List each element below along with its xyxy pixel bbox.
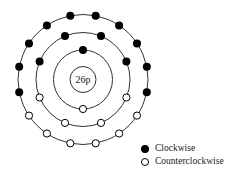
electron-clockwise [122, 58, 130, 66]
legend-item-clockwise: Clockwise [141, 142, 224, 155]
electron-clockwise [15, 63, 23, 71]
legend: Clockwise Counterclockwise [141, 142, 224, 168]
electron-counterclockwise [61, 119, 68, 126]
nucleus: 26p [70, 67, 96, 93]
electron-counterclockwise [25, 112, 32, 119]
electron-counterclockwise [92, 140, 99, 147]
nucleus-label: 26p [76, 74, 91, 85]
electron-counterclockwise [97, 119, 104, 126]
electron-counterclockwise [133, 112, 140, 119]
electron-clockwise [15, 88, 23, 96]
open-circle-icon [141, 158, 149, 166]
legend-label-counterclockwise: Counterclockwise [155, 155, 224, 168]
filled-circle-icon [141, 145, 149, 153]
electron-clockwise [25, 39, 33, 47]
electron-clockwise [43, 22, 51, 30]
electron-clockwise [36, 58, 44, 66]
electron-clockwise [66, 12, 74, 20]
electron-counterclockwise [123, 94, 130, 101]
electron-clockwise [97, 32, 105, 40]
electron-clockwise [92, 12, 100, 20]
electron-counterclockwise [116, 130, 123, 137]
electron-counterclockwise [36, 94, 43, 101]
electron-clockwise [61, 32, 69, 40]
electron-clockwise [115, 22, 123, 30]
electron-counterclockwise [67, 140, 74, 147]
electron-counterclockwise [43, 130, 50, 137]
electron-clockwise [133, 39, 141, 47]
electron-counterclockwise [79, 105, 86, 112]
electron-clockwise [79, 46, 87, 54]
legend-item-counterclockwise: Counterclockwise [141, 155, 224, 168]
legend-label-clockwise: Clockwise [155, 142, 195, 155]
electron-clockwise [143, 63, 151, 71]
electron-clockwise [143, 88, 151, 96]
